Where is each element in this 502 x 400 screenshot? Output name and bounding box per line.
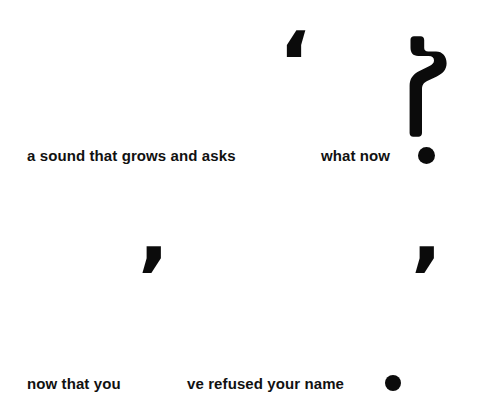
apostrophe-right-glyph: ’ bbox=[410, 236, 443, 322]
line2-left-text: now that you bbox=[27, 376, 121, 391]
apostrophe-left-glyph: ’ bbox=[137, 236, 170, 322]
composition-canvas: ‘ a sound that grows and asks what now ’… bbox=[0, 0, 502, 400]
open-quote-glyph: ‘ bbox=[278, 20, 311, 106]
line2-right-text: ve refused your name bbox=[187, 376, 344, 391]
line2-period-dot bbox=[385, 375, 401, 391]
line1-period-dot bbox=[418, 147, 435, 164]
line1-left-text: a sound that grows and asks bbox=[27, 148, 236, 163]
line1-right-text: what now bbox=[321, 148, 390, 163]
question-mark-glyph bbox=[402, 34, 462, 140]
